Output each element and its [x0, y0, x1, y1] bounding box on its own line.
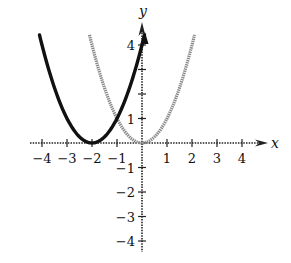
x-axis-label: x: [271, 135, 279, 151]
y-tick-label: −2: [116, 185, 135, 200]
x-tick-label: −2: [82, 151, 101, 166]
x-tick-label: −3: [57, 151, 76, 166]
y-axis-label: y: [138, 3, 148, 19]
x-tick-label: 1: [163, 151, 171, 166]
x-tick-label: 3: [213, 151, 221, 166]
x-tick-label: 4: [238, 151, 246, 166]
y-tick-label: 4: [127, 38, 135, 53]
y-tick-label: −1: [116, 161, 135, 176]
x-tick-label: −4: [32, 151, 51, 166]
parabola-graph: −4−3−2−1123441−1−2−3−4 x y: [0, 0, 291, 263]
curves: [40, 32, 195, 143]
y-tick-label: −4: [116, 234, 135, 249]
axes: [30, 22, 268, 252]
x-tick-label: 2: [188, 151, 196, 166]
y-tick-label: −3: [116, 210, 135, 225]
y-tick-label: 1: [127, 112, 135, 127]
